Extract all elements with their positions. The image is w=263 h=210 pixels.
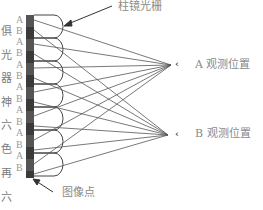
side-text-char: 六 <box>1 192 12 203</box>
strip-label: B <box>16 26 23 36</box>
lens-arcs <box>34 15 63 176</box>
strip-label: A <box>16 60 23 70</box>
strip-label: B <box>16 48 23 58</box>
side-text-char: 俱 <box>1 26 12 37</box>
side-text-char: 色 <box>1 144 12 155</box>
strip-label: B <box>16 71 23 81</box>
strip-label: B <box>16 163 23 173</box>
eye-icon: ‹ <box>175 59 179 69</box>
strip-label: B <box>16 94 23 104</box>
side-text-char: 神 <box>1 97 12 108</box>
strip-label: B <box>16 140 23 150</box>
view-a-label: A 观测位置 <box>195 59 250 70</box>
strip-label: B <box>16 117 23 127</box>
lenticular-pointer <box>64 6 112 26</box>
view-b-label: B 观测位置 <box>195 128 251 139</box>
side-text-char: 六 <box>1 120 12 131</box>
strip-label: A <box>16 82 23 92</box>
rays-to-b <box>34 30 168 174</box>
side-text-char: 再 <box>1 168 12 179</box>
strip-label: A <box>16 128 23 138</box>
strip-label: A <box>16 151 23 161</box>
image-point-label: 图像点 <box>62 187 95 198</box>
side-text-char: 器 <box>1 73 12 84</box>
image-strip <box>26 15 34 178</box>
strip-label: A <box>16 15 23 25</box>
lenticular-label: 柱镜光栅 <box>118 1 162 12</box>
image-point-pointer <box>33 179 53 192</box>
eye-icon: ‹ <box>175 129 179 139</box>
side-text-char: 光 <box>1 50 12 61</box>
strip-label: A <box>16 37 23 47</box>
strip-label: A <box>16 105 23 115</box>
lenticular-diagram <box>0 0 263 210</box>
